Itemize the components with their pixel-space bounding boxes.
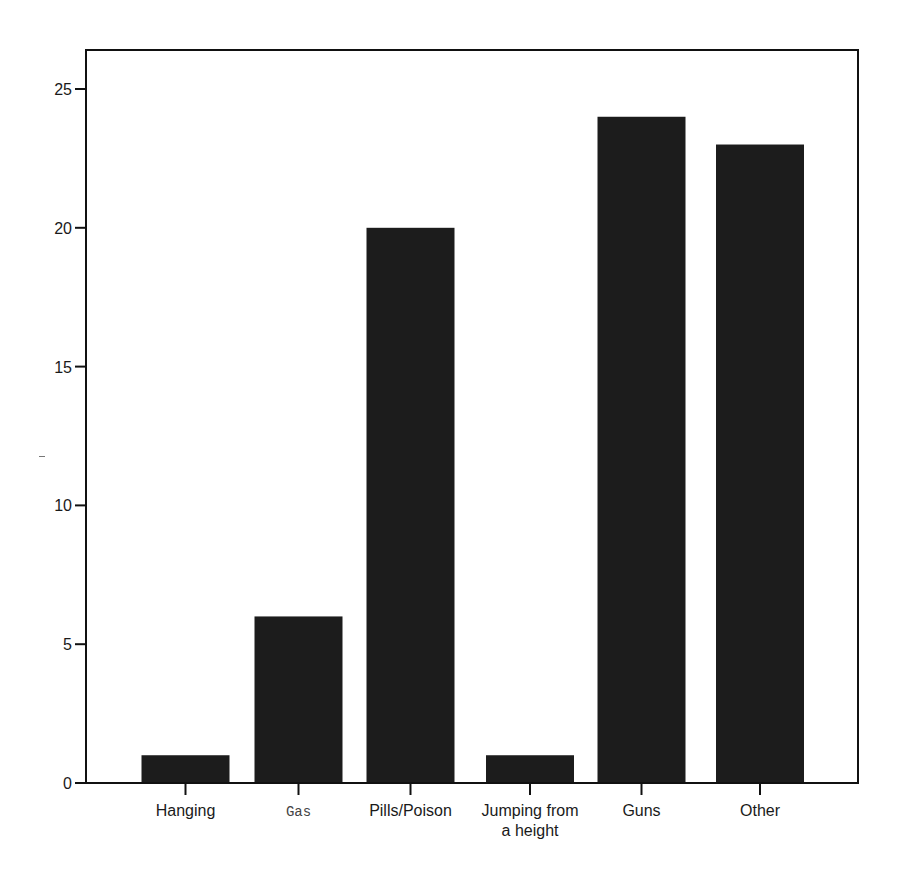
x-tick-label: Gas (286, 804, 311, 820)
y-tick-label: 20 (54, 220, 72, 237)
bar-guns (598, 117, 686, 783)
stray-mark (39, 456, 45, 457)
bar-gas (255, 616, 343, 783)
y-axis: 0510152025 (54, 81, 87, 792)
x-tick-label: Guns (622, 802, 660, 819)
y-tick-label: 10 (54, 497, 72, 514)
x-tick-label: Pills/Poison (369, 802, 452, 819)
bar-other (716, 145, 804, 783)
bar-jumping-from-a-height (486, 755, 574, 783)
y-tick-label: 5 (63, 636, 72, 653)
x-tick-label: Hanging (156, 802, 216, 819)
x-tick-label: Jumping froma height (482, 802, 579, 839)
bars (142, 117, 805, 783)
x-axis: HangingGasPills/PoisonJumping froma heig… (156, 783, 781, 839)
bar-hanging (142, 755, 230, 783)
bar-chart: 0510152025 HangingGasPills/PoisonJumping… (0, 0, 907, 875)
y-tick-label: 25 (54, 81, 72, 98)
bar-pills-poison (367, 228, 455, 783)
y-tick-label: 15 (54, 359, 72, 376)
y-tick-label: 0 (63, 775, 72, 792)
x-tick-label: Other (740, 802, 781, 819)
